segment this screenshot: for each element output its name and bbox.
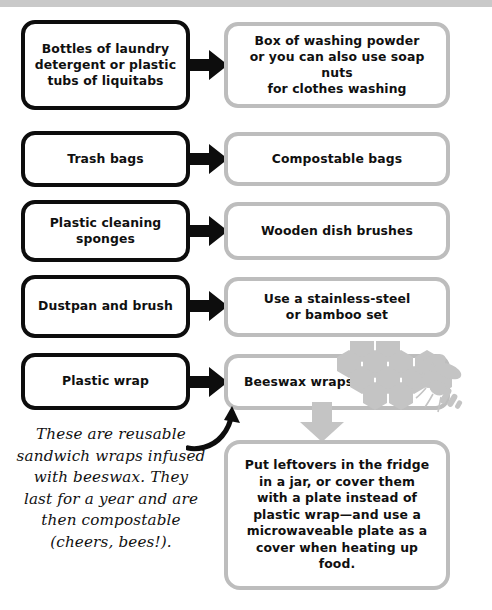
swap-row-1-from-label: Bottles of laundry detergent or plastic … <box>25 41 186 89</box>
swap-row-2-to-label: Compostable bags <box>228 151 446 167</box>
arrow-right-icon-3 <box>190 214 228 248</box>
swap-row-3-from-box: Plastic cleaning sponges <box>21 200 190 262</box>
swap-row-4-to-label: Use a stainless-steel or bamboo set <box>228 291 446 323</box>
handwritten-annotation: These are reusable sandwich wraps infuse… <box>4 424 218 553</box>
swap-row-2-from-label: Trash bags <box>25 151 186 167</box>
swap-row-5-from-box: Plastic wrap <box>21 353 190 410</box>
infographic-page: Bottles of laundry detergent or plastic … <box>0 0 492 610</box>
followup-label: Put leftovers in the fridge in a jar, or… <box>228 457 446 573</box>
arrow-right-icon-1 <box>190 48 228 82</box>
swap-row-5-to-box: Beeswax wraps <box>224 354 450 410</box>
swap-row-2-to-box: Compostable bags <box>224 132 450 186</box>
swap-row-5-from-label: Plastic wrap <box>25 373 186 389</box>
swap-row-1-to-box: Box of washing powder or you can also us… <box>224 22 450 108</box>
swap-row-5-to-label: Beeswax wraps <box>228 374 361 390</box>
arrow-right-icon-4 <box>190 289 228 323</box>
swap-row-4-from-box: Dustpan and brush <box>21 275 190 338</box>
swap-row-2-from-box: Trash bags <box>21 131 190 187</box>
swap-row-3-to-label: Wooden dish brushes <box>228 223 446 239</box>
swap-row-1-from-box: Bottles of laundry detergent or plastic … <box>21 20 190 110</box>
arrow-right-icon-5 <box>190 365 228 399</box>
arrow-right-icon-2 <box>190 142 228 176</box>
followup-box: Put leftovers in the fridge in a jar, or… <box>224 440 450 590</box>
top-gray-band <box>0 0 492 7</box>
swap-row-1-to-label: Box of washing powder or you can also us… <box>228 33 446 98</box>
swap-row-4-from-label: Dustpan and brush <box>25 298 186 314</box>
swap-row-3-from-label: Plastic cleaning sponges <box>25 215 186 247</box>
swap-row-3-to-box: Wooden dish brushes <box>224 202 450 260</box>
swap-row-4-to-box: Use a stainless-steel or bamboo set <box>224 277 450 337</box>
